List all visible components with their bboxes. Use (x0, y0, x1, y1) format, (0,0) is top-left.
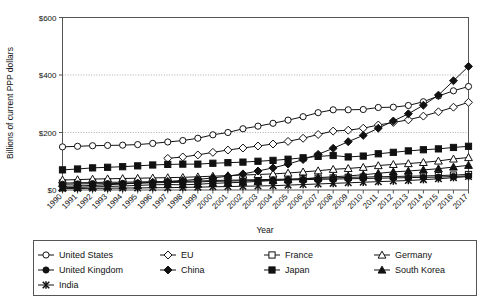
marker-open-square (269, 252, 275, 258)
marker-filled-square (269, 267, 275, 273)
legend-item-china[interactable]: China (160, 265, 205, 275)
marker-open-diamond (465, 98, 473, 106)
legend-item-india[interactable]: India (38, 280, 79, 290)
legend-item-germany[interactable]: Germany (374, 250, 433, 260)
marker-open-circle (59, 144, 65, 150)
marker-filled-square (59, 167, 65, 173)
marker-filled-square (74, 166, 80, 172)
marker-open-circle (270, 120, 276, 126)
y-tick-label: $400 (39, 71, 57, 80)
marker-open-circle (180, 137, 186, 143)
legend-item-france[interactable]: France (264, 250, 313, 260)
x-tick-label: 1996 (135, 192, 154, 211)
marker-filled-diamond (254, 167, 262, 175)
marker-open-circle (150, 140, 156, 146)
x-tick-label: 2012 (376, 192, 395, 211)
marker-open-circle (195, 135, 201, 141)
marker-open-circle (390, 104, 396, 110)
marker-filled-diamond (404, 110, 412, 118)
y-tick-label: $600 (39, 14, 57, 23)
legend-label: Japan (285, 265, 310, 275)
marker-open-circle (240, 126, 246, 132)
marker-open-circle (89, 143, 95, 149)
line-chart: $0$200$400$600 1990199119921993199419951… (0, 0, 492, 300)
marker-open-circle (225, 129, 231, 135)
marker-open-diamond (179, 153, 187, 161)
marker-open-diamond (209, 148, 217, 156)
x-tick-label: 2000 (195, 192, 214, 211)
legend-item-united-states[interactable]: United States (38, 250, 114, 260)
marker-open-circle (360, 106, 366, 112)
x-tick-label: 2002 (225, 192, 244, 211)
marker-filled-square (285, 156, 291, 162)
x-tick-label: 2001 (210, 192, 229, 211)
y-axis-title: Billions of current PPP dollars (5, 47, 15, 159)
marker-open-diamond (434, 108, 442, 116)
marker-open-diamond (164, 251, 172, 259)
marker-open-circle (405, 102, 411, 108)
x-tick-label: 1994 (105, 192, 124, 211)
marker-filled-square (120, 164, 126, 170)
marker-open-circle (255, 123, 261, 129)
marker-filled-square (210, 160, 216, 166)
marker-open-circle (285, 117, 291, 123)
marker-open-diamond (224, 146, 232, 154)
marker-filled-diamond (344, 138, 352, 146)
marker-open-circle (315, 110, 321, 116)
marker-open-circle (330, 107, 336, 113)
x-tick-label: 1993 (90, 192, 109, 211)
marker-filled-square (105, 164, 111, 170)
x-axis-title: Year (256, 225, 273, 235)
x-tick-label: 2008 (316, 192, 335, 211)
legend-item-united-kingdom[interactable]: United Kingdom (38, 265, 123, 275)
marker-filled-triangle (465, 161, 473, 168)
x-tick-label: 2005 (271, 192, 290, 211)
legend-item-japan[interactable]: Japan (264, 265, 310, 275)
marker-open-diamond (299, 134, 307, 142)
marker-open-diamond (284, 137, 292, 145)
chart-figure: $0$200$400$600 1990199119921993199419951… (0, 0, 492, 300)
marker-filled-square (150, 162, 156, 168)
marker-filled-square (390, 149, 396, 155)
marker-filled-diamond (269, 164, 277, 172)
x-tick-label: 2016 (436, 192, 455, 211)
marker-filled-square (165, 161, 171, 167)
x-tick-label: 1999 (180, 192, 199, 211)
x-tick-label: 1992 (75, 192, 94, 211)
marker-filled-square (255, 158, 261, 164)
x-tick-label: 2015 (421, 192, 440, 211)
marker-filled-diamond (164, 266, 172, 274)
marker-filled-square (330, 152, 336, 158)
marker-filled-circle (43, 267, 49, 273)
marker-filled-square (435, 146, 441, 152)
x-tick-label: 2009 (331, 192, 350, 211)
x-tick-label: 2006 (286, 192, 305, 211)
marker-open-circle (465, 83, 471, 89)
marker-open-circle (210, 132, 216, 138)
marker-filled-square (89, 165, 95, 171)
legend-label: United Kingdom (59, 265, 123, 275)
marker-open-circle (345, 107, 351, 113)
marker-open-diamond (254, 142, 262, 150)
legend-label: France (285, 250, 313, 260)
legend-label: China (181, 265, 205, 275)
marker-filled-square (405, 148, 411, 154)
x-tick-label: 2011 (361, 192, 380, 211)
marker-filled-square (195, 161, 201, 167)
marker-filled-diamond (329, 144, 337, 152)
legend-item-south-korea[interactable]: South Korea (374, 265, 445, 275)
x-tick-label: 1991 (60, 192, 79, 211)
marker-filled-square (345, 154, 351, 160)
marker-open-circle (120, 142, 126, 148)
marker-open-circle (375, 104, 381, 110)
marker-open-circle (450, 88, 456, 94)
legend-item-eu[interactable]: EU (160, 250, 194, 260)
legend-label: South Korea (395, 265, 445, 275)
x-tick-label: 2004 (255, 192, 274, 211)
marker-open-circle (165, 139, 171, 145)
marker-open-diamond (269, 140, 277, 148)
x-tick-label: 1997 (150, 192, 169, 211)
marker-open-circle (43, 252, 49, 258)
marker-open-circle (74, 143, 80, 149)
marker-open-diamond (419, 112, 427, 120)
